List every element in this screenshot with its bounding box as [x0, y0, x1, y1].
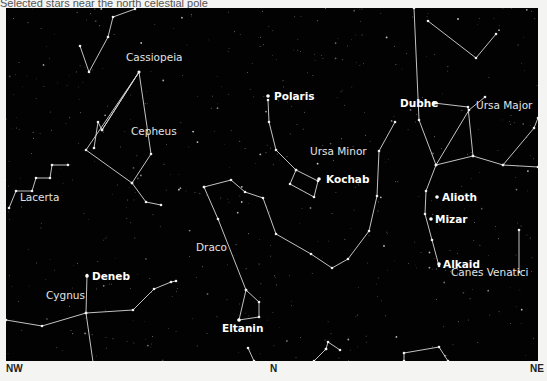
- star-dot: [13, 94, 14, 95]
- constellation-line: [503, 118, 538, 165]
- star-dot: [130, 95, 131, 96]
- star-dot: [297, 39, 298, 40]
- star-dot: [332, 213, 333, 214]
- star-dot: [499, 25, 500, 26]
- star-dot: [397, 181, 398, 182]
- star-dot: [140, 42, 142, 44]
- star-dot: [97, 261, 98, 262]
- star-dot: [173, 28, 174, 29]
- star-dot: [94, 9, 95, 10]
- constellation-star: [331, 267, 334, 270]
- star-dot: [502, 8, 503, 9]
- star-dot: [415, 121, 416, 122]
- star-dot: [474, 53, 475, 54]
- constellation-star: [79, 45, 82, 48]
- star-dot: [241, 186, 243, 188]
- star-dot: [248, 233, 249, 234]
- constellation-line: [248, 348, 254, 361]
- constellation-star: [347, 258, 350, 261]
- star-dot: [77, 12, 78, 13]
- star-dot: [291, 305, 292, 306]
- star-dot: [9, 161, 10, 162]
- star-dot: [69, 117, 70, 118]
- star-dot: [133, 320, 134, 321]
- star-dot: [227, 199, 228, 200]
- star-dot: [145, 339, 146, 340]
- constellation-star: [247, 347, 250, 350]
- star-dot: [468, 320, 469, 321]
- star-dot: [355, 35, 356, 36]
- star-dot: [289, 275, 290, 276]
- star-dot: [236, 244, 237, 245]
- star-dot: [312, 273, 313, 274]
- star-dot: [217, 107, 219, 109]
- star-dot: [446, 355, 447, 356]
- constellation-star: [325, 348, 328, 351]
- star-dot: [177, 288, 178, 289]
- star-dot: [277, 154, 278, 155]
- constellation-star: [394, 121, 397, 124]
- star-dot: [351, 39, 352, 40]
- named-star-point: [429, 217, 433, 221]
- star-dot: [145, 258, 147, 260]
- star-dot: [259, 264, 260, 265]
- star-dot: [341, 138, 342, 139]
- star-dot: [502, 119, 503, 120]
- constellation-star: [475, 57, 478, 60]
- star-dot: [521, 309, 523, 311]
- star-dot: [511, 8, 512, 9]
- star-dot: [247, 72, 248, 73]
- star-dot: [300, 51, 301, 52]
- star-dot: [296, 357, 297, 358]
- star-dot: [387, 270, 388, 271]
- star-dot: [80, 65, 81, 66]
- constellation-star: [145, 201, 148, 204]
- star-dot: [12, 128, 13, 129]
- constellation-star: [131, 182, 134, 185]
- star-dot: [414, 242, 415, 243]
- star-dot: [176, 331, 177, 332]
- star-dot: [103, 285, 105, 287]
- star-dot: [431, 200, 432, 201]
- star-dot: [366, 342, 367, 343]
- star-dot: [96, 289, 97, 290]
- star-dot: [521, 323, 522, 324]
- star-dot: [219, 220, 220, 221]
- star-dot: [8, 186, 9, 187]
- constellation-star: [533, 127, 536, 130]
- star-dot: [432, 269, 433, 270]
- star-dot: [208, 39, 209, 40]
- star-dot: [6, 180, 7, 181]
- star-dot: [467, 154, 468, 155]
- star-dot: [207, 293, 209, 295]
- star-dot: [133, 342, 134, 343]
- star-dot: [192, 131, 194, 133]
- compass-ne: NE: [530, 363, 544, 374]
- star-dot: [115, 258, 116, 259]
- star-dot: [79, 99, 80, 100]
- star-dot: [377, 296, 378, 297]
- star-dot: [56, 347, 57, 348]
- star-dot: [103, 240, 104, 241]
- star-dot: [260, 37, 261, 38]
- constellation-star: [245, 289, 248, 292]
- star-dot: [36, 78, 37, 79]
- star-dot: [263, 44, 264, 45]
- star-dot: [36, 263, 37, 264]
- star-dot: [26, 76, 27, 77]
- star-dot: [362, 9, 363, 10]
- star-dot: [241, 201, 243, 203]
- star-dot: [166, 190, 167, 191]
- star-dot: [386, 37, 388, 39]
- constellation-star: [327, 341, 330, 344]
- star-dot: [378, 211, 379, 212]
- star-dot: [516, 189, 518, 191]
- constellation-star: [132, 309, 135, 312]
- star-dot: [239, 304, 240, 305]
- star-dot: [521, 226, 522, 227]
- star-dot: [212, 96, 213, 97]
- star-dot: [429, 267, 431, 269]
- star-dot: [228, 94, 229, 95]
- star-dot: [499, 311, 500, 312]
- star-dot: [408, 129, 409, 130]
